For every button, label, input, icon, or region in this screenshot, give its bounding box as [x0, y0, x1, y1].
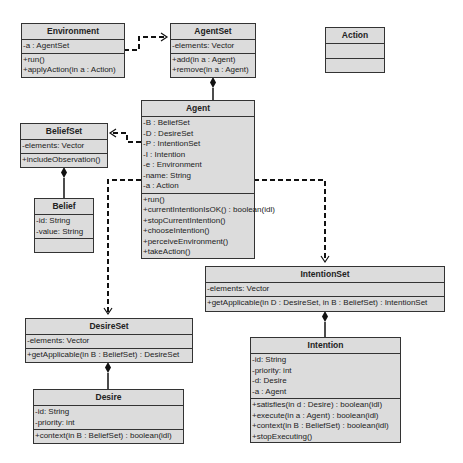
- operation: +getApplicable(in D : DesireSet, in B : …: [207, 298, 443, 309]
- operation: +chooseIntention(): [143, 226, 253, 237]
- attributes: -elements: Vector: [26, 335, 192, 349]
- dependency-agent-intentionset: [254, 180, 325, 261]
- class-name: Environment: [22, 24, 124, 40]
- attribute: -name: String: [143, 171, 253, 182]
- operation: +run(): [143, 195, 253, 206]
- dependency-agent-desireset: [108, 180, 141, 313]
- attribute: -P : IntentionSet: [143, 139, 253, 150]
- attribute: -e : Environment: [143, 160, 253, 171]
- attribute: -id: String: [35, 407, 182, 418]
- class-desireset[interactable]: DesireSet -elements: Vector +getApplicab…: [25, 318, 193, 363]
- operations: +context(in B : BeliefSet) : boolean(idl…: [34, 430, 183, 443]
- attributes: -a : AgentSet: [22, 40, 124, 54]
- attribute: -a : Action: [143, 181, 253, 192]
- attribute: -id: String: [252, 355, 399, 366]
- class-name: Intention: [251, 338, 400, 354]
- attribute: -value: String: [36, 227, 92, 238]
- attribute: -priority: int: [35, 418, 182, 429]
- operations: [35, 239, 93, 253]
- operations: +add(in a : Agent) +remove(in a : Agent): [171, 54, 255, 77]
- attribute: -priority: int: [252, 366, 399, 377]
- class-intention[interactable]: Intention -id: String -priority: int -d:…: [250, 337, 401, 443]
- operation: +perceiveEnvironment(): [143, 237, 253, 248]
- operation: +add(in a : Agent): [172, 55, 254, 66]
- attribute: -elements: Vector: [27, 336, 191, 347]
- composition-diamond-beliefset: [61, 167, 67, 178]
- attribute: -id: String: [36, 216, 92, 227]
- operation: +takeAction(): [143, 247, 253, 258]
- attribute: -elements: Vector: [172, 41, 254, 52]
- operation: +currentIntentionIsOK() : boolean(idl): [143, 205, 253, 216]
- class-action[interactable]: Action: [325, 27, 385, 73]
- operations: +getApplicable(in B : BeliefSet) : Desir…: [26, 349, 192, 362]
- attribute: -elements: Vector: [207, 284, 443, 295]
- dependency-agent-beliefset: [111, 133, 141, 142]
- class-environment[interactable]: Environment -a : AgentSet +run() +applyA…: [21, 23, 125, 78]
- class-beliefset[interactable]: BeliefSet -elements: Vector +includeObse…: [20, 123, 108, 168]
- class-name: Action: [326, 28, 384, 44]
- operation: +remove(in a : Agent): [172, 65, 254, 76]
- composition-diamond-desireset: [105, 362, 111, 373]
- operations: +getApplicable(in D : DesireSet, in B : …: [206, 297, 444, 310]
- operation: +context(in B : BeliefSet) : boolean(idl…: [252, 421, 399, 432]
- attribute: -a : Agent: [252, 387, 399, 398]
- class-agent[interactable]: Agent -B : BeliefSet -D : DesireSet -P :…: [141, 100, 255, 259]
- attributes: -elements: Vector: [206, 283, 444, 297]
- class-belief[interactable]: Belief -id: String -value: String: [34, 198, 94, 253]
- attribute: -a : AgentSet: [23, 41, 123, 52]
- class-name: Belief: [35, 199, 93, 215]
- operation: +applyAction(in a : Action): [23, 65, 123, 76]
- attribute: -elements: Vector: [22, 141, 106, 152]
- operation: +stopExecuting(): [252, 432, 399, 443]
- class-name: Agent: [142, 101, 254, 117]
- operation: +satisfies(in d : Desire) : boolean(idl): [252, 400, 399, 411]
- composition-diamond-intentionset: [322, 311, 328, 322]
- operation: +stopCurrentIntention(): [143, 216, 253, 227]
- operations: +includeObservation(): [21, 154, 107, 167]
- attributes: -id: String -priority: int: [34, 406, 183, 430]
- operation: +execute(in a : Agent) : boolean(idl): [252, 411, 399, 422]
- attribute: -D : DesireSet: [143, 129, 253, 140]
- operation: +getApplicable(in B : BeliefSet) : Desir…: [27, 350, 191, 361]
- class-name: IntentionSet: [206, 267, 444, 283]
- attributes: [326, 44, 384, 59]
- operation: +context(in B : BeliefSet) : boolean(idl…: [35, 431, 182, 442]
- operation: +run(): [23, 55, 123, 66]
- class-name: BeliefSet: [21, 124, 107, 140]
- class-agentset[interactable]: AgentSet -elements: Vector +add(in a : A…: [170, 23, 256, 78]
- class-desire[interactable]: Desire -id: String -priority: int +conte…: [33, 389, 184, 444]
- attribute: -B : BeliefSet: [143, 118, 253, 129]
- attributes: -id: String -priority: int -d: Desire -a…: [251, 354, 400, 399]
- operations: +run() +applyAction(in a : Action): [22, 54, 124, 77]
- operations: [326, 59, 384, 73]
- class-intentionset[interactable]: IntentionSet -elements: Vector +getAppli…: [205, 266, 445, 312]
- attributes: -B : BeliefSet -D : DesireSet -P : Inten…: [142, 117, 254, 194]
- attribute: -I : Intention: [143, 150, 253, 161]
- operations: +run() +currentIntentionIsOK() : boolean…: [142, 194, 254, 259]
- dependency-environment-agentset: [124, 37, 166, 50]
- composition-diamond-agentset: [210, 77, 216, 88]
- class-name: AgentSet: [171, 24, 255, 40]
- class-name: Desire: [34, 390, 183, 406]
- attributes: -elements: Vector: [171, 40, 255, 54]
- operation: +includeObservation(): [22, 155, 106, 166]
- class-name: DesireSet: [26, 319, 192, 335]
- attributes: -id: String -value: String: [35, 215, 93, 239]
- operations: +satisfies(in d : Desire) : boolean(idl)…: [251, 399, 400, 443]
- attribute: -d: Desire: [252, 376, 399, 387]
- attributes: -elements: Vector: [21, 140, 107, 154]
